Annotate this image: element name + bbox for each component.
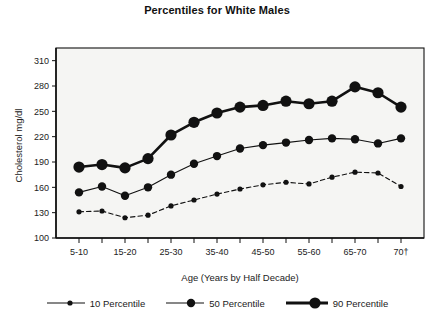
data-point: [96, 159, 107, 170]
data-point: [122, 215, 127, 220]
chart-legend: 10 Percentile 50 Percentile 90 Percentil…: [0, 296, 434, 310]
y-tick-label: 250: [34, 107, 49, 117]
x-tick-label: 45-50: [251, 247, 274, 257]
data-point: [257, 100, 268, 111]
y-tick-label: 100: [34, 233, 49, 243]
data-point: [282, 138, 290, 146]
data-point: [305, 136, 313, 144]
x-tick-label: 70†: [393, 247, 408, 257]
x-tick-label: 55-60: [297, 247, 320, 257]
data-point: [213, 152, 221, 160]
x-tick-label: 15-20: [113, 247, 136, 257]
x-tick-label: 25-30: [159, 247, 182, 257]
data-point: [328, 134, 336, 142]
legend-label-90-percentile: 90 Percentile: [333, 298, 388, 309]
legend-swatch-50-percentile: [165, 297, 205, 309]
y-tick-label: 190: [34, 157, 49, 167]
data-point: [75, 188, 83, 196]
legend-item-50-percentile: 50 Percentile: [165, 297, 264, 309]
x-tick-label: 35-40: [205, 247, 228, 257]
data-point: [99, 208, 104, 213]
data-point: [306, 181, 311, 186]
data-point: [190, 159, 198, 167]
data-point: [142, 153, 153, 164]
data-point: [398, 184, 403, 189]
legend-label-50-percentile: 50 Percentile: [209, 298, 264, 309]
data-point: [144, 183, 152, 191]
data-point: [303, 98, 314, 109]
data-point: [260, 182, 265, 187]
data-point: [234, 102, 245, 113]
data-point: [329, 175, 334, 180]
x-tick-label: 5-10: [70, 247, 88, 257]
data-point: [76, 209, 81, 214]
data-point: [349, 81, 360, 92]
data-point: [375, 170, 380, 175]
data-point: [191, 197, 196, 202]
chart-container: Percentiles for White Males Cholesterol …: [0, 0, 434, 317]
data-point: [259, 141, 267, 149]
y-tick-label: 160: [34, 183, 49, 193]
data-point: [98, 182, 106, 190]
data-point: [395, 102, 406, 113]
plot-area: 1001301601902202502803105-1015-2025-3035…: [0, 0, 434, 317]
data-point: [165, 129, 176, 140]
data-point: [188, 117, 199, 128]
data-point: [236, 144, 244, 152]
data-point: [211, 107, 222, 118]
data-point: [237, 186, 242, 191]
y-tick-label: 130: [34, 208, 49, 218]
data-point: [168, 203, 173, 208]
data-point: [73, 161, 84, 172]
data-point: [119, 162, 130, 173]
legend-item-10-percentile: 10 Percentile: [46, 297, 145, 309]
legend-swatch-90-percentile: [285, 296, 329, 310]
data-point: [214, 191, 219, 196]
data-point: [397, 134, 405, 142]
data-point: [326, 96, 337, 107]
x-axis-label: Age (Years by Half Decade): [56, 272, 424, 283]
legend-label-10-percentile: 10 Percentile: [90, 298, 145, 309]
y-tick-label: 220: [34, 132, 49, 142]
data-point: [121, 192, 129, 200]
legend-swatch-10-percentile: [46, 297, 86, 309]
data-point: [374, 139, 382, 147]
data-point: [280, 96, 291, 107]
data-point: [145, 213, 150, 218]
data-point: [283, 180, 288, 185]
plot-background: [56, 48, 424, 238]
data-point: [167, 170, 175, 178]
legend-item-90-percentile: 90 Percentile: [285, 296, 388, 310]
x-tick-label: 65-70: [343, 247, 366, 257]
y-tick-label: 280: [34, 81, 49, 91]
data-point: [372, 87, 383, 98]
data-point: [351, 135, 359, 143]
y-tick-label: 310: [34, 56, 49, 66]
data-point: [352, 170, 357, 175]
